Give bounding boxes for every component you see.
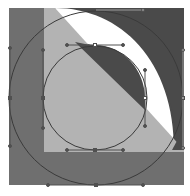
handle-end[interactable] bbox=[144, 125, 147, 128]
handle-end[interactable] bbox=[9, 145, 12, 148]
handle-end[interactable] bbox=[42, 127, 45, 130]
anchor-point[interactable] bbox=[42, 97, 45, 100]
anchor-point[interactable] bbox=[95, 184, 98, 187]
anchor-point[interactable] bbox=[94, 149, 97, 152]
handle-end[interactable] bbox=[122, 149, 125, 152]
handle-end[interactable] bbox=[47, 184, 50, 187]
artwork-svg bbox=[0, 0, 190, 196]
handle-end[interactable] bbox=[142, 184, 145, 187]
illustration-canvas[interactable] bbox=[0, 0, 190, 196]
handle-end[interactable] bbox=[144, 69, 147, 72]
handle-end[interactable] bbox=[182, 147, 185, 150]
bottom-band-shape[interactable] bbox=[9, 152, 184, 185]
anchor-point[interactable] bbox=[9, 97, 12, 100]
handle-end[interactable] bbox=[9, 47, 12, 50]
anchor-point[interactable] bbox=[182, 97, 185, 100]
anchor-point[interactable] bbox=[144, 97, 147, 100]
handle-end[interactable] bbox=[42, 49, 45, 52]
handle-end[interactable] bbox=[66, 44, 69, 47]
anchor-point[interactable] bbox=[94, 44, 97, 47]
handle-end[interactable] bbox=[66, 149, 69, 152]
handle-end[interactable] bbox=[182, 49, 185, 52]
handle-end[interactable] bbox=[142, 9, 145, 12]
artwork-fills bbox=[9, 8, 184, 185]
handle-end[interactable] bbox=[122, 44, 125, 47]
